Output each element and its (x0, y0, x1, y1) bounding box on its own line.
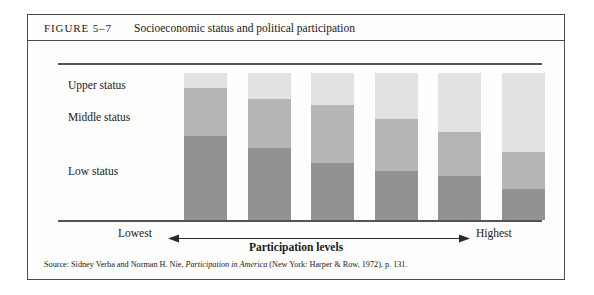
chart-plot-area: Upper status Middle status Low status Lo… (28, 41, 564, 281)
axis-low-end-label: Lowest (118, 227, 152, 239)
source-note: Source: Sidney Verba and Norman H. Nie, … (44, 260, 407, 269)
bar-segment (502, 189, 545, 220)
source-italic-title: Participation in America (186, 260, 268, 269)
bar-segment (375, 171, 418, 220)
stacked-bar (248, 73, 291, 220)
bar-segment (248, 73, 291, 99)
stacked-bar (502, 73, 545, 220)
stacked-bar (311, 73, 354, 220)
bar-segment (502, 73, 545, 152)
figure-title: Socioeconomic status and political parti… (134, 22, 355, 34)
bar-segment (375, 73, 418, 119)
source-prefix: Source: Sidney Verba and Norman H. Nie, (44, 260, 186, 269)
bar-segment (184, 136, 227, 220)
figure-header: FIGURE 5–7 Socioeconomic status and poli… (28, 15, 564, 41)
source-suffix: (New York: Harper & Row, 1972), p. 131. (267, 260, 407, 269)
figure-box: FIGURE 5–7 Socioeconomic status and poli… (27, 14, 565, 280)
bar-segment (248, 99, 291, 148)
x-axis-title: Participation levels (28, 241, 564, 253)
stacked-bar (375, 73, 418, 220)
axis-high-end-label: Highest (476, 227, 512, 239)
bar-segment (311, 105, 354, 162)
bar-segment (184, 73, 227, 88)
bar-segment (438, 176, 481, 220)
stacked-bar (184, 73, 227, 220)
bar-segment (184, 88, 227, 137)
stacked-bar (438, 73, 481, 220)
figure-number-label: FIGURE 5–7 (44, 22, 112, 34)
bar-segment (438, 132, 481, 176)
bar-segment (311, 163, 354, 220)
bar-segment (248, 148, 291, 220)
bar-segment (438, 73, 481, 132)
bar-segment (502, 152, 545, 189)
bar-segment (311, 73, 354, 105)
bar-segment (375, 119, 418, 172)
chart-baseline-rule (58, 220, 542, 222)
